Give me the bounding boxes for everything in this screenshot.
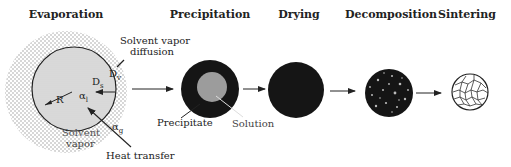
stage-title-evaporation: Evaporation: [29, 8, 103, 21]
decomposition-particle: [365, 69, 413, 117]
stage-title-sintering: Sintering: [438, 8, 496, 21]
precipitation-particle: [181, 60, 243, 118]
label-precipitate: Precipitate: [157, 117, 213, 128]
stage-title-precipitation: Precipitation: [170, 8, 251, 21]
stage-title-drying: Drying: [278, 8, 320, 21]
label-dv: Dv: [109, 68, 121, 84]
label-alpha-g: αg: [112, 121, 123, 137]
spray-pyrolysis-diagram: Evaporation Precipitation Drying Decompo…: [0, 0, 511, 167]
drying-particle: [268, 62, 324, 118]
label-solvent-vapor-line2: vapor: [66, 138, 95, 149]
label-solution: Solution: [232, 118, 274, 129]
label-ds: Ds: [92, 76, 104, 92]
label-solvent-vapor-diffusion-line1: Solvent vapor: [120, 35, 190, 46]
stage-title-decomposition: Decomposition: [345, 8, 437, 21]
label-r: R: [56, 94, 64, 105]
label-alpha-l: αl: [79, 90, 88, 106]
sintering-particle: [452, 74, 488, 110]
label-solvent-vapor-line1: Solvent: [62, 127, 100, 138]
label-solvent-vapor-diffusion-line2: diffusion: [130, 46, 174, 57]
label-heat-transfer: Heat transfer: [106, 150, 175, 161]
